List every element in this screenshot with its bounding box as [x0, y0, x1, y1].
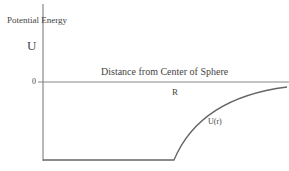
radius-label: R	[172, 87, 178, 97]
y-axis-symbol: U	[27, 38, 36, 54]
y-axis-label: Potential Energy	[7, 15, 39, 25]
curve-label: U(r)	[208, 117, 222, 126]
potential-curve	[43, 87, 287, 160]
x-axis-label: Distance from Center of Sphere	[101, 66, 228, 77]
potential-energy-plot	[0, 0, 289, 171]
zero-tick-label: 0	[32, 77, 36, 86]
